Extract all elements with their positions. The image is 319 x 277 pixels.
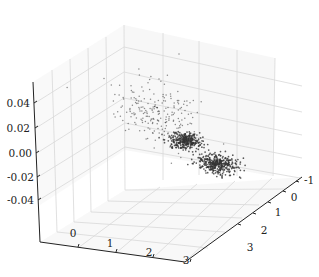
- data-point: [201, 146, 203, 148]
- data-point: [187, 124, 189, 126]
- data-point: [182, 146, 184, 148]
- data-point: [178, 53, 180, 55]
- data-point: [243, 157, 245, 159]
- data-point: [132, 104, 134, 106]
- data-point: [209, 159, 211, 161]
- data-point: [179, 108, 181, 110]
- data-point: [188, 131, 190, 133]
- data-point: [154, 130, 156, 132]
- data-point: [170, 143, 172, 145]
- data-point: [228, 162, 230, 164]
- data-point: [226, 171, 228, 173]
- data-point: [164, 142, 166, 144]
- data-point: [189, 146, 191, 148]
- data-point: [114, 116, 116, 118]
- data-point: [133, 97, 135, 99]
- data-point: [210, 169, 212, 171]
- data-point: [168, 136, 170, 138]
- data-point: [122, 97, 124, 99]
- data-point: [189, 123, 191, 125]
- data-point: [219, 170, 221, 172]
- data-point: [231, 158, 233, 160]
- data-point: [161, 126, 163, 128]
- data-point: [144, 98, 146, 100]
- data-point: [147, 127, 149, 129]
- data-point: [203, 159, 205, 161]
- data-point: [200, 101, 202, 103]
- data-point: [231, 161, 233, 163]
- data-point: [186, 105, 188, 107]
- data-point: [223, 169, 225, 171]
- data-point: [171, 140, 173, 142]
- data-point: [206, 166, 208, 168]
- data-point: [178, 118, 180, 120]
- data-point: [235, 167, 237, 169]
- data-point: [212, 162, 214, 164]
- data-point: [122, 120, 124, 122]
- data-point: [174, 112, 176, 114]
- data-point: [153, 147, 155, 149]
- data-point: [199, 154, 201, 156]
- data-point: [223, 143, 225, 145]
- data-point: [196, 148, 198, 150]
- data-point: [160, 80, 162, 82]
- data-point: [152, 132, 154, 134]
- data-point: [149, 89, 151, 91]
- data-point: [212, 172, 214, 174]
- data-point: [142, 118, 144, 120]
- data-point: [171, 163, 173, 165]
- data-point: [136, 117, 138, 119]
- data-point: [192, 163, 194, 165]
- data-point: [145, 138, 147, 140]
- data-point: [209, 157, 211, 159]
- data-point: [231, 163, 233, 165]
- data-point: [165, 100, 167, 102]
- data-point: [186, 138, 188, 140]
- y-tick-label: -1: [304, 174, 314, 186]
- data-point: [177, 102, 179, 104]
- data-point: [186, 131, 188, 133]
- data-point: [195, 137, 197, 139]
- data-point: [180, 137, 182, 139]
- data-point: [177, 100, 179, 102]
- data-point: [158, 100, 160, 102]
- data-point: [211, 159, 213, 161]
- data-point: [207, 144, 209, 146]
- data-point: [199, 157, 201, 159]
- data-point: [150, 99, 152, 101]
- data-point: [171, 147, 173, 149]
- z-tick-labels: 0.04 0.02 0.00 -0.02 -0.04: [7, 97, 35, 206]
- data-point: [220, 155, 222, 157]
- data-point: [144, 108, 146, 110]
- data-point: [129, 109, 131, 111]
- data-point: [103, 78, 105, 80]
- data-point: [150, 76, 152, 78]
- data-point: [151, 108, 153, 110]
- data-point: [140, 107, 142, 109]
- data-point: [134, 113, 136, 115]
- data-point: [221, 175, 223, 177]
- data-point: [228, 171, 230, 173]
- data-point: [153, 93, 155, 95]
- data-point: [134, 122, 136, 124]
- data-point: [189, 102, 191, 104]
- data-point: [168, 116, 170, 118]
- data-point: [203, 168, 205, 170]
- data-point: [138, 100, 140, 102]
- data-point: [129, 108, 131, 110]
- data-point: [119, 84, 121, 86]
- data-point: [213, 153, 215, 155]
- data-point: [205, 161, 207, 163]
- data-point: [177, 145, 179, 147]
- data-point: [178, 127, 180, 129]
- data-point: [173, 107, 175, 109]
- z-tick-label: -0.04: [7, 194, 34, 206]
- data-point: [191, 137, 193, 139]
- data-point: [163, 110, 165, 112]
- data-point: [190, 113, 192, 115]
- data-point: [142, 122, 144, 124]
- data-point: [147, 82, 149, 84]
- data-point: [158, 120, 160, 122]
- data-point: [161, 102, 163, 104]
- data-point: [217, 173, 219, 175]
